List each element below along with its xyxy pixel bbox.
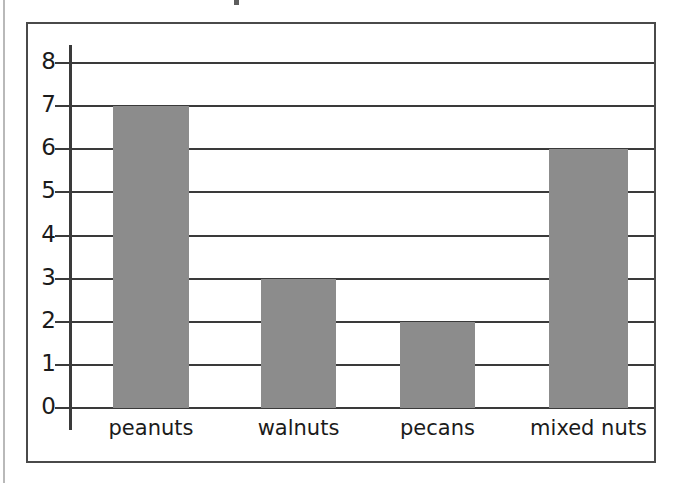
cropped-title-artifact [234,0,239,5]
y-axis-tick-label: 8 [22,50,56,73]
y-axis-tick-label: 3 [22,266,56,289]
bar [261,279,336,408]
y-axis-tick-label: 0 [22,395,56,418]
gridline [55,62,654,64]
y-axis-line [69,45,72,430]
bar [400,322,475,408]
bar [549,149,628,408]
bar [113,106,189,408]
y-axis-tick-label: 4 [22,223,56,246]
y-axis-tick-label: 5 [22,179,56,202]
y-axis-tick-label: 2 [22,309,56,332]
y-axis-tick-label: 6 [22,136,56,159]
x-axis-category-label: mixed nuts [489,418,678,439]
y-axis-tick-label: 7 [22,93,56,116]
y-axis-tick-label: 1 [22,352,56,375]
page-edge-line [3,0,5,483]
